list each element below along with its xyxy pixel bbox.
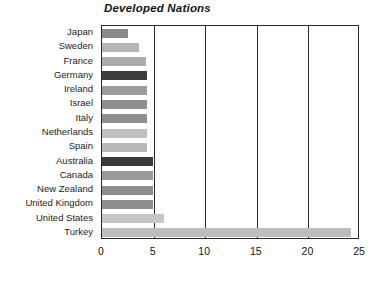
category-label: Italy [0,113,97,123]
x-tick-label: 25 [353,245,365,257]
category-label: Spain [0,141,97,151]
bars-layer [102,26,358,238]
bar [102,186,153,195]
category-label: New Zealand [0,184,97,194]
category-label: Israel [0,98,97,108]
bar-chart: Developed Nations JapanSwedenFranceGerma… [0,0,379,290]
bar [102,157,153,166]
bar [102,100,147,109]
category-axis-labels: JapanSwedenFranceGermanyIrelandIsraelIta… [0,25,97,239]
bar [102,129,147,138]
bar [102,114,147,123]
bar [102,86,147,95]
category-label: Japan [0,27,97,37]
category-label: Canada [0,170,97,180]
bar [102,171,153,180]
bar [102,57,146,66]
plot-area [101,25,359,239]
x-tick-label: 5 [150,245,156,257]
bar [102,143,147,152]
x-tick-label: 20 [302,245,314,257]
bar [102,71,147,80]
bar [102,228,351,237]
category-label: United States [0,213,97,223]
category-label: France [0,56,97,66]
bar [102,200,153,209]
bar [102,29,128,38]
bar [102,43,139,52]
category-label: Ireland [0,84,97,94]
chart-title: Developed Nations [104,2,211,14]
category-label: Sweden [0,41,97,51]
category-label: United Kingdom [0,198,97,208]
x-tick-label: 15 [250,245,262,257]
bar [102,214,164,223]
x-tick-label: 10 [198,245,210,257]
category-label: Netherlands [0,127,97,137]
category-label: Australia [0,156,97,166]
category-label: Turkey [0,227,97,237]
x-tick-label: 0 [98,245,104,257]
x-axis-tick-labels: 0510152025 [0,245,379,265]
category-label: Germany [0,70,97,80]
